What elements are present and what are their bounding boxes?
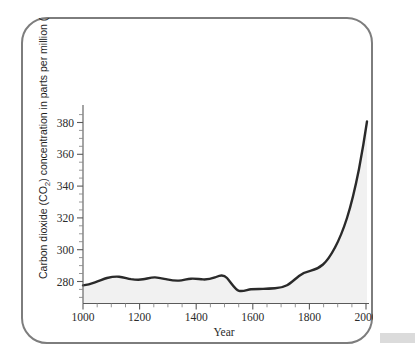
y-tick-label-360: 360 — [57, 148, 75, 160]
x-tick-label-1400: 1400 — [185, 311, 208, 323]
x-axis-title: Year — [213, 326, 234, 338]
x-tick-label-1200: 1200 — [128, 311, 151, 323]
figure-root: Carbon dioxide (CO2) concentration in pa… — [0, 0, 415, 363]
x-axis-ticks — [83, 304, 366, 310]
x-tick-label-1600: 1600 — [241, 311, 264, 323]
x-tick-label-2000: 2000 — [355, 311, 374, 323]
chart-container: Carbon dioxide (CO2) concentration in pa… — [21, 17, 373, 344]
y-tick-label-300: 300 — [57, 244, 75, 256]
y-tick-label-380: 380 — [57, 117, 75, 129]
x-tick-label-1000: 1000 — [72, 311, 95, 323]
y-axis-ticks — [77, 115, 83, 298]
y-tick-label-340: 340 — [57, 180, 75, 192]
y-axis-title-prefix: Carbon dioxide (CO — [37, 186, 49, 279]
frame-shadow — [380, 333, 415, 343]
x-tick-label-1800: 1800 — [298, 311, 321, 323]
y-axis-title: Carbon dioxide (CO2) concentration in pa… — [37, 17, 52, 279]
y-tick-label-280: 280 — [57, 276, 75, 288]
co2-line-chart: Carbon dioxide (CO2) concentration in pa… — [21, 17, 373, 344]
y-axis-title-suffix: ) concentration in parts per million (pp… — [37, 17, 49, 182]
y-tick-label-320: 320 — [57, 212, 75, 224]
